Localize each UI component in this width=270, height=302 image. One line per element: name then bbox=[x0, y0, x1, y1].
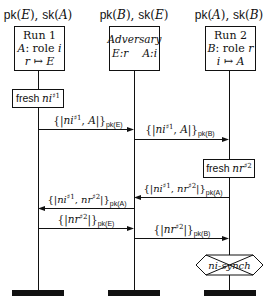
claim-ni-synch: ni-synch bbox=[196, 255, 263, 275]
adversary-left-role: E:r bbox=[111, 47, 129, 59]
message-5: {|nr♯2|}pk(E) bbox=[39, 213, 135, 231]
arrowhead-icon bbox=[134, 195, 141, 200]
message-6: {|nr♯2|}pk(B) bbox=[135, 223, 230, 241]
arrowhead-icon bbox=[222, 236, 229, 241]
adversary-box: Adversary E:r A:i bbox=[106, 27, 162, 71]
svg-text:pk(B), sk(E): pk(B), sk(E) bbox=[100, 8, 169, 22]
arrowhead-icon bbox=[127, 226, 134, 231]
arrowhead-icon bbox=[222, 137, 229, 142]
adversary-right-role: A:i bbox=[142, 47, 157, 59]
run1-title: Run 1 bbox=[23, 29, 56, 42]
run1-keys: pk(E), sk(A) bbox=[4, 8, 73, 22]
run2-title: Run 2 bbox=[214, 29, 247, 42]
fresh-ni-action: fresh ni♯1 bbox=[13, 90, 64, 108]
message-4: {|ni♯1, nr♯2|}pk(A) bbox=[38, 193, 135, 211]
arrowhead-icon bbox=[38, 206, 45, 211]
adversary-end-bar bbox=[108, 290, 160, 296]
message-1: {|ni♯1, A|}pk(E) bbox=[39, 114, 135, 132]
run1-box: Run 1 A: role i r ↦ E bbox=[15, 27, 65, 71]
run2-box: Run 2 B: role r i ↦ A bbox=[206, 27, 256, 71]
message-6-label: {|nr♯2|}pk(B) bbox=[154, 223, 211, 238]
adversary-keys: pk(B), sk(E) bbox=[100, 8, 169, 22]
run2-mapping: i ↦ A bbox=[217, 55, 245, 68]
message-3-label: {|ni♯1, nr♯2|}pk(A) bbox=[143, 182, 222, 197]
run2-keys: pk(A), sk(B) bbox=[195, 8, 264, 22]
message-1-label: {|ni♯1, A|}pk(E) bbox=[53, 114, 122, 129]
run2-role: B: role r bbox=[207, 42, 255, 55]
message-2-label: {|ni♯1, A|}pk(B) bbox=[145, 123, 214, 138]
message-3: {|ni♯1, nr♯2|}pk(A) bbox=[134, 182, 230, 200]
run1-end-bar bbox=[12, 290, 64, 296]
svg-text:pk(A), sk(B): pk(A), sk(B) bbox=[195, 8, 264, 22]
svg-text:pk(E), sk(A): pk(E), sk(A) bbox=[4, 8, 73, 22]
sequence-diagram: pk(E), sk(A) pk(B), sk(E) pk(A), sk(B) R… bbox=[0, 0, 270, 302]
message-2: {|ni♯1, A|}pk(B) bbox=[135, 123, 230, 142]
run2-end-bar bbox=[204, 290, 256, 296]
run1-role: A: role i bbox=[16, 42, 61, 55]
run1-mapping: r ↦ E bbox=[25, 55, 55, 68]
arrowhead-icon bbox=[127, 127, 134, 132]
message-5-label: {|nr♯2|}pk(E) bbox=[58, 213, 115, 228]
fresh-nr-action: fresh nr♯2 bbox=[204, 160, 255, 178]
message-4-label: {|ni♯1, nr♯2|}pk(A) bbox=[47, 193, 126, 208]
adversary-title: Adversary bbox=[106, 33, 162, 45]
